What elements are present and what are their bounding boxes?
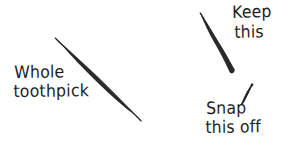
label-snap-this-off-line1: Snap	[206, 99, 261, 117]
label-whole-toothpick: Whole toothpick	[14, 63, 89, 100]
keep-piece-sliver	[200, 13, 235, 74]
label-keep-this: Keep this	[232, 3, 272, 42]
sketch-figure: Whole toothpick Keep this Snap this off	[0, 0, 287, 153]
label-snap-this-off: Snap this off	[206, 99, 261, 136]
label-keep-this-line1: Keep	[232, 3, 272, 21]
label-whole-toothpick-line1: Whole	[14, 63, 89, 81]
label-keep-this-line2: this	[234, 23, 272, 41]
label-snap-this-off-line2: this off	[205, 118, 261, 136]
label-whole-toothpick-line2: toothpick	[13, 82, 89, 100]
